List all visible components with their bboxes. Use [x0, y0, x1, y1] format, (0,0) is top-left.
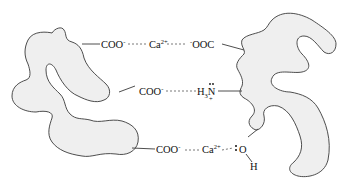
lone-pair-dot: [212, 83, 214, 85]
bond-line: [222, 44, 244, 50]
coordination-dashes: [222, 148, 233, 150]
calcium-ion-label: Ca2+: [202, 143, 221, 155]
lone-pair-dot: [209, 83, 211, 85]
lone-pair-dot: [235, 149, 237, 151]
calcium-ion-label: Ca2+: [149, 38, 168, 50]
lone-pair-dot: [235, 145, 237, 147]
carboxylate-label: COO-: [156, 143, 180, 155]
hydroxyl-oxygen-label: O: [239, 144, 247, 155]
ammonium-label: H3N: [197, 86, 216, 99]
protein-right: [237, 13, 336, 176]
carboxylate-label: COO-: [101, 38, 125, 50]
bond-line: [132, 148, 155, 149]
carboxylate-label: COO-: [139, 85, 163, 97]
carboxylate-right-label: -OOC: [190, 38, 214, 50]
bond-line: [248, 129, 258, 137]
ammonium-charge: +: [209, 95, 213, 102]
hydroxyl-hydrogen-label: H: [250, 161, 258, 172]
protein-interaction-diagram: COO- Ca2+ -OOC COO- H3N + COO- Ca2+ O H: [0, 0, 350, 189]
bond-line: [119, 86, 135, 92]
